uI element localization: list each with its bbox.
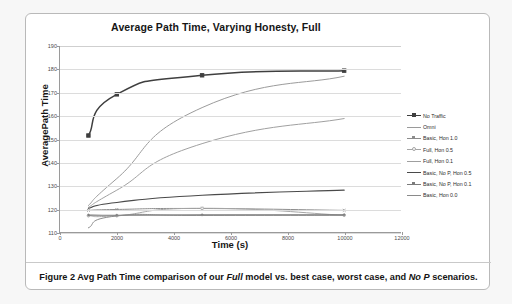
- series-no-traffic: [87, 69, 346, 137]
- legend-swatch-icon: [407, 157, 421, 166]
- y-tick-label: 140: [48, 160, 57, 166]
- y-tick-mark: [57, 140, 60, 141]
- data-point-marker: [200, 74, 203, 77]
- y-tick-label: 190: [48, 43, 57, 49]
- legend-item-omni[interactable]: Omni: [407, 121, 491, 132]
- gridline: [60, 140, 401, 141]
- figure-screenshot: Average Path Time, Varying Honesty, Full…: [0, 0, 512, 304]
- gridline: [60, 46, 401, 47]
- plot-area: 1101201301401501601701801900200040006000…: [59, 46, 401, 233]
- x-axis-title: Time (s): [59, 239, 401, 250]
- legend-item-basic-hon-0-0[interactable]: Basic, Hon 0.0: [407, 190, 491, 201]
- gridline: [60, 69, 401, 70]
- legend-swatch-icon: [407, 168, 421, 177]
- legend-item-label: Basic, Hon 1.0: [423, 135, 457, 141]
- legend-item-label: Omni: [423, 124, 436, 130]
- legend-item-full-hon-0-1[interactable]: Full, Hon 0.1: [407, 156, 491, 167]
- y-tick-mark: [57, 69, 60, 70]
- legend-swatch-icon: [407, 134, 421, 143]
- legend-item-no-traffic[interactable]: No Traffic: [407, 110, 491, 121]
- y-tick-mark: [57, 163, 60, 164]
- y-tick-label: 170: [48, 90, 57, 96]
- legend-swatch-icon: [407, 123, 421, 132]
- y-tick-label: 110: [48, 230, 57, 236]
- legend-item-basic-hon-1-0[interactable]: Basic, Hon 1.0: [407, 133, 491, 144]
- legend-item-label: Basic, No P, Hon 0.5: [423, 170, 471, 176]
- legend-item-basic-no-p-hon-0-5[interactable]: Basic, No P, Hon 0.5: [407, 167, 491, 178]
- y-axis-title: AveragePath Time: [39, 56, 50, 196]
- gridline: [60, 93, 401, 94]
- series-line: [88, 71, 344, 136]
- y-tick-mark: [57, 46, 60, 47]
- legend-item-label: Full, Hon 0.5: [423, 147, 453, 153]
- series-line: [88, 214, 344, 227]
- legend-swatch-icon: [407, 111, 421, 120]
- chart-title: Average Path Time, Varying Honesty, Full: [26, 21, 406, 33]
- gridline: [60, 186, 401, 187]
- chart-area: Average Path Time, Varying Honesty, Full…: [26, 14, 491, 262]
- series-basic-hon-0-0: [88, 214, 344, 227]
- legend-swatch-icon: [407, 180, 421, 189]
- y-tick-mark: [57, 186, 60, 187]
- legend-item-full-hon-0-5[interactable]: Full, Hon 0.5: [407, 144, 491, 155]
- legend-item-label: No Traffic: [423, 113, 446, 119]
- y-tick-label: 150: [48, 137, 57, 143]
- legend-swatch-icon: [407, 191, 421, 200]
- gridline: [60, 210, 401, 211]
- series-basic-no-p-hon-0-5: [88, 190, 344, 208]
- data-point-marker: [87, 134, 90, 137]
- figure-frame: Average Path Time, Varying Honesty, Full…: [25, 13, 490, 290]
- y-tick-label: 180: [48, 66, 57, 72]
- gridline: [60, 163, 401, 164]
- y-tick-label: 120: [48, 207, 57, 213]
- y-tick-label: 130: [48, 183, 57, 189]
- chart-legend: No TrafficOmniBasic, Hon 1.0Full, Hon 0.…: [407, 110, 491, 201]
- figure-caption-text: Figure 2 Avg Path Time comparison of our…: [31, 272, 485, 282]
- legend-item-basic-no-p-hon-0-1[interactable]: Basic, No P, Hon 0.1: [407, 178, 491, 189]
- legend-item-label: Basic, Hon 0.0: [423, 192, 457, 198]
- series-line: [88, 190, 344, 208]
- y-tick-label: 160: [48, 113, 57, 119]
- figure-caption: Figure 2 Avg Path Time comparison of our…: [26, 262, 491, 291]
- y-tick-mark: [57, 116, 60, 117]
- y-tick-mark: [57, 210, 60, 211]
- legend-item-label: Basic, No P, Hon 0.1: [423, 181, 471, 187]
- legend-swatch-icon: [407, 145, 421, 154]
- legend-item-label: Full, Hon 0.1: [423, 158, 453, 164]
- y-tick-mark: [57, 93, 60, 94]
- gridline: [60, 116, 401, 117]
